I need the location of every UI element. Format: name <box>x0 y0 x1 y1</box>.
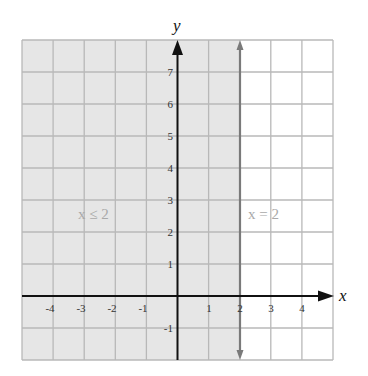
x-tick: -1 <box>138 302 147 314</box>
y-tick: 1 <box>168 258 174 270</box>
x-tick: -4 <box>45 302 55 314</box>
x-tick: -3 <box>76 302 86 314</box>
y-tick: 6 <box>168 98 174 110</box>
x-tick: 4 <box>299 302 305 314</box>
inequality-graph: y x -4 -3 -2 -1 1 2 3 4 7 6 5 4 3 2 1 -1… <box>0 0 368 376</box>
y-tick: 2 <box>168 226 174 238</box>
region-annotation: x ≤ 2 <box>78 206 109 222</box>
x-axis-arrow-icon <box>318 291 334 302</box>
line-annotation: x = 2 <box>248 206 279 222</box>
y-tick: 5 <box>168 130 174 142</box>
y-tick: 3 <box>168 194 174 206</box>
x-tick: -2 <box>107 302 116 314</box>
y-tick: -1 <box>164 322 173 334</box>
x-axis-label: x <box>338 286 347 305</box>
x-tick: 3 <box>268 302 274 314</box>
y-tick: 4 <box>168 162 174 174</box>
x-tick: 1 <box>206 302 212 314</box>
x-tick: 2 <box>237 302 243 314</box>
y-axis-label: y <box>171 16 181 35</box>
y-tick: 7 <box>168 66 174 78</box>
